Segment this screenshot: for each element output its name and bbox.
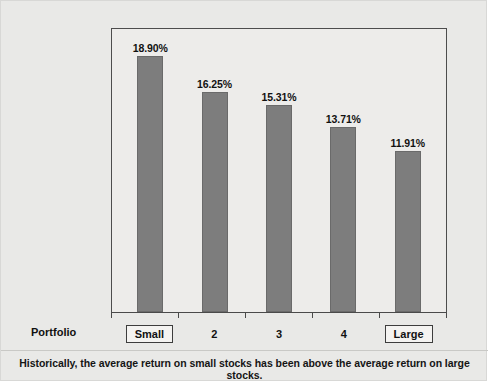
category-cell: 2 xyxy=(185,326,243,342)
caption-divider xyxy=(1,350,488,351)
axis-tick xyxy=(379,313,380,318)
chart-plot-frame: 18.90% 16.25% 15.31% 13.71% 11.91% xyxy=(111,28,447,313)
bar-group[interactable]: 15.31% xyxy=(250,29,308,312)
bar-rect[interactable] xyxy=(137,56,163,312)
category-cell: Large xyxy=(380,325,438,343)
category-label-2[interactable]: 2 xyxy=(204,326,224,342)
figure-caption: Historically, the average return on smal… xyxy=(1,357,488,381)
bar-rect[interactable] xyxy=(266,105,292,312)
bar-group[interactable]: 18.90% xyxy=(121,29,179,312)
axis-tick xyxy=(312,313,313,318)
axis-tick xyxy=(446,313,447,318)
bar-group[interactable]: 13.71% xyxy=(314,29,372,312)
bar-group[interactable]: 11.91% xyxy=(379,29,437,312)
category-cell: 4 xyxy=(315,326,373,342)
axis-row-label: Portfolio xyxy=(31,326,107,338)
axis-tick xyxy=(245,313,246,318)
bar-rect[interactable] xyxy=(202,92,228,312)
bar-series: 18.90% 16.25% 15.31% 13.71% 11.91% xyxy=(112,29,446,312)
bar-value-label: 15.31% xyxy=(261,91,296,103)
axis-tick xyxy=(178,313,179,318)
bar-rect[interactable] xyxy=(330,127,356,312)
bar-value-label: 11.91% xyxy=(391,137,425,149)
category-cell: 3 xyxy=(250,326,308,342)
bar-value-label: 16.25% xyxy=(197,78,232,90)
bar-rect[interactable] xyxy=(395,151,421,312)
category-label-large[interactable]: Large xyxy=(385,325,433,343)
category-cell: Small xyxy=(120,325,178,343)
category-label-4[interactable]: 4 xyxy=(334,326,354,342)
category-labels: Small 2 3 4 Large xyxy=(111,323,447,345)
axis-tick xyxy=(111,313,112,318)
x-axis-ticks xyxy=(111,313,447,318)
category-axis-row: Portfolio Small 2 3 4 Large xyxy=(1,323,488,345)
chart-plot-area: 18.90% 16.25% 15.31% 13.71% 11.91% xyxy=(112,29,446,312)
bar-value-label: 18.90% xyxy=(133,42,168,54)
bar-value-label: 13.71% xyxy=(326,113,361,125)
bar-group[interactable]: 16.25% xyxy=(186,29,244,312)
category-label-3[interactable]: 3 xyxy=(269,326,289,342)
category-label-small[interactable]: Small xyxy=(126,325,173,343)
